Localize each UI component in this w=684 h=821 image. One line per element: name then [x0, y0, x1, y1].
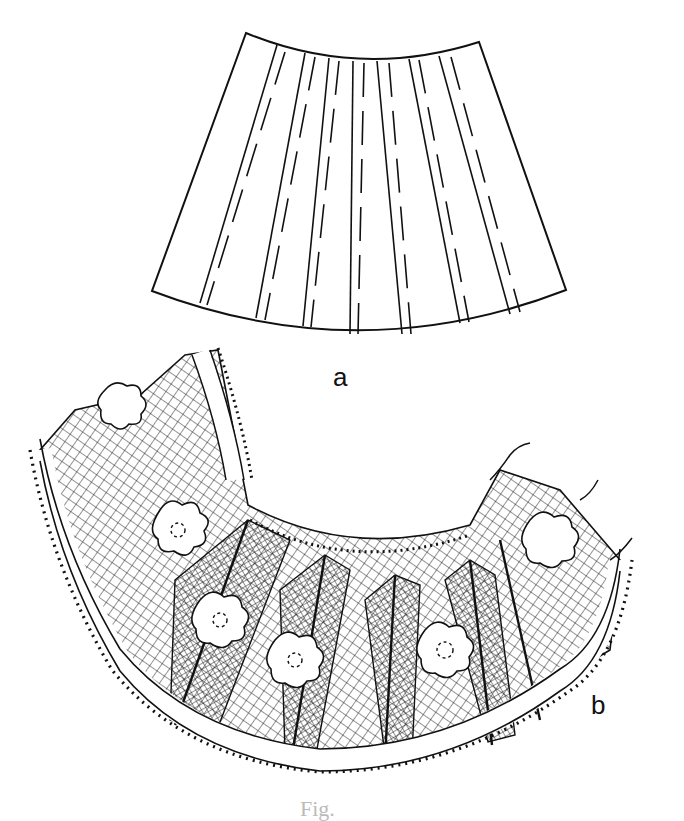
lace-collar-b [30, 348, 632, 772]
pattern-piece-a [152, 33, 566, 334]
figure-caption: Fig. [300, 798, 335, 820]
part-label-b: b [591, 692, 605, 718]
part-label-a: a [333, 364, 347, 390]
